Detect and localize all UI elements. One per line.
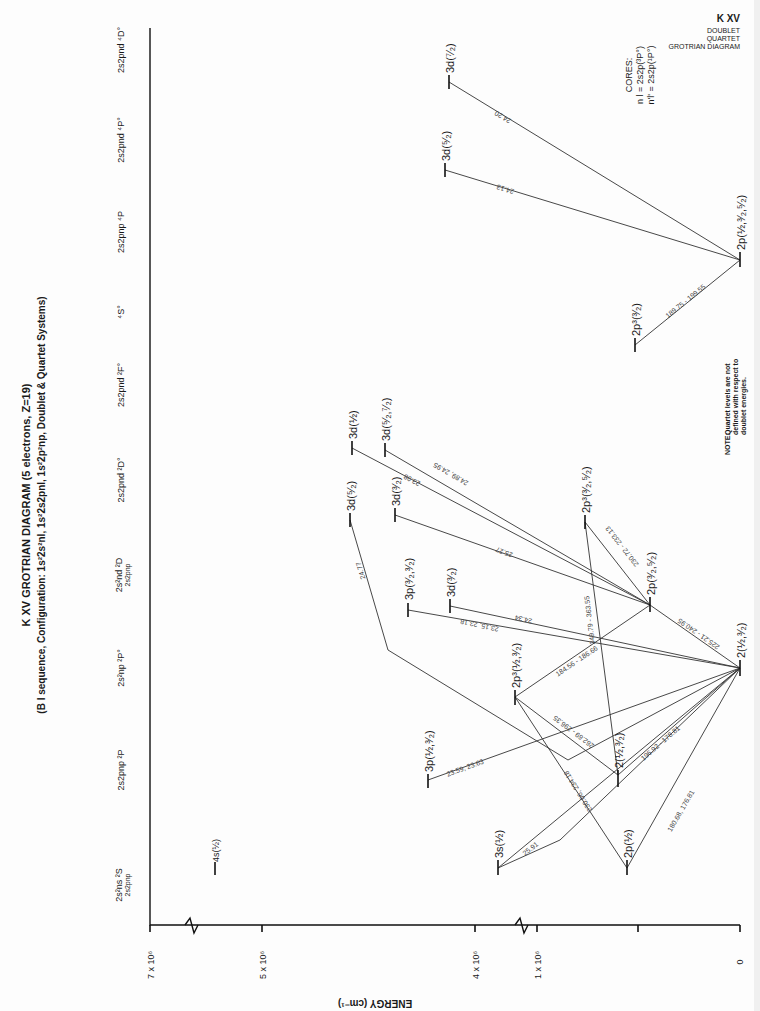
column-sublabel-2D: 2s2pnp <box>124 563 132 586</box>
transition-label: 23.59, 23.63 <box>446 758 485 778</box>
transition-label: 25.91 <box>521 840 539 856</box>
transition-label: 196.92 - 178.81 <box>640 724 682 762</box>
header-line2: QUARTET <box>707 35 741 43</box>
axis-tick-0: 0 <box>735 959 745 964</box>
column-label-4Do: 2s2pnd ⁴D° <box>116 27 126 73</box>
transition-label: 230.72 - 233.13 <box>604 525 640 568</box>
column-label-4So: ⁴S° <box>116 305 126 319</box>
transition-3dd-2pb <box>352 448 650 605</box>
transition-label: 180.68, 176.81 <box>666 789 695 833</box>
transition-3dq2-2pq <box>449 82 740 260</box>
transition-label: 23.15, 23.18 <box>460 618 500 633</box>
axis-tick-4e6: 4 x 10⁶ <box>471 951 481 980</box>
level-label: 2p³(³⁄₂,⁵⁄₂) <box>580 466 592 513</box>
level-label: 2p(³⁄₂,⁵⁄₂) <box>645 552 657 595</box>
transition-2p3b-2pb <box>585 522 650 605</box>
note-line2: defined with respect to <box>732 359 740 435</box>
column-sublabel-2S: 2s2pnp <box>124 873 132 896</box>
level-label: 3d(⁷⁄₂) <box>444 43 456 73</box>
level-label: 3s(½) <box>493 830 505 858</box>
level-label: 3d(³⁄₂) <box>445 568 457 597</box>
header-block: K XV DOUBLET QUARTET GROTRIAN DIAGRAM <box>668 13 740 50</box>
axis-tick-1e6: 1 x 10⁶ <box>533 951 543 980</box>
note-line1: Quartet levels are not <box>724 363 732 435</box>
axis-tick-7e6: 7 x 10⁶ <box>146 951 156 980</box>
transition-2a-ground <box>618 668 740 775</box>
column-label-2Fo: 2s2pnd ²F° <box>116 363 126 408</box>
level-label: 3d(½) <box>347 410 359 439</box>
transition-2p3a-2a <box>515 697 618 775</box>
column-label-4P: 2s2pnp ⁴P <box>116 211 126 253</box>
column-labels: 2s²ns ²S 2s2pnp 2s2pnp ²P 2s²np ²P° 2s²n… <box>114 27 132 902</box>
note-line3: doublet energies. <box>740 377 748 435</box>
transition-label: 24.20 <box>493 110 512 125</box>
axis-tick-5e6: 5 x 10⁶ <box>258 951 268 980</box>
cores-line1: n l = 2s2p(³P°) <box>635 46 645 104</box>
transition-3dq1-2pq <box>445 170 740 260</box>
level-label: 3d(⁵⁄₂) <box>440 131 452 161</box>
header-line1: DOUBLET <box>707 27 741 34</box>
note-head: NOTE: <box>724 433 731 455</box>
column-label-4Po: 2s2pnd ⁴P° <box>116 117 126 163</box>
level-label: 4s(½) <box>211 839 221 862</box>
transition-2p3a-2pb <box>515 605 650 697</box>
level-label: 3p(½,³⁄₂) <box>423 730 435 772</box>
header-ion: K XV <box>717 13 741 24</box>
transition-label: 24.89, 24.95 <box>432 461 469 487</box>
column-label-2P: 2s2pnp ²P <box>116 749 126 790</box>
cores-line2: n'l' = 2s2p(¹P°) <box>646 46 656 105</box>
level-label: 3d(⁵⁄₂) <box>345 481 357 511</box>
level-label: 2p³(½,³⁄₂) <box>510 643 522 688</box>
level-label: 3p(³⁄₂,³⁄₂) <box>403 558 415 600</box>
column-label-2S: 2s²ns ²S <box>114 868 124 902</box>
transition-label: 262.69 - 296.35 <box>552 714 595 749</box>
transition-label: 230.06, 234.18 <box>562 770 593 813</box>
transition-labels: 25.91 180.68, 176.81 196.92 - 178.81 23.… <box>355 110 721 857</box>
level-label: 2p(½,³⁄₂,⁵⁄₂) <box>735 195 747 250</box>
level-label: 2p³(³⁄₂) <box>630 303 642 336</box>
transition-label: 184.56 - 186.66 <box>554 644 599 677</box>
diagram-canvas: K XV DOUBLET QUARTET GROTRIAN DIAGRAM K … <box>0 0 760 1011</box>
title-block: K XV GROTRIAN DIAGRAM (5 electrons, Z=19… <box>20 296 47 713</box>
transition-label: 25.27 <box>495 546 514 559</box>
cores-title: CORES: <box>624 58 634 93</box>
title-sub: (B I sequence, Configuration: 1s²2s²nl, … <box>36 296 47 713</box>
level-label: 2(½,³⁄₂) <box>735 623 747 658</box>
energy-levels: 4s(½) 3s(½) 2p(½) 3p(½,³⁄₂) 2(½,³⁄₂) 2p³… <box>211 43 747 875</box>
axis-label-energy: ENERGY (cm⁻¹) <box>338 998 412 1009</box>
column-label-2Po: 2s²np ²P° <box>116 649 126 687</box>
level-label: 2(½,³⁄₂) <box>613 733 625 768</box>
level-label: 3d(³⁄₂) <box>390 477 402 506</box>
cores-legend: CORES: n l = 2s2p(³P°) n'l' = 2s2p(¹P°) <box>624 46 656 105</box>
title-main: K XV GROTRIAN DIAGRAM (5 electrons, Z=19… <box>20 383 32 626</box>
transition-label: 349.79 - 363.55 <box>583 595 596 645</box>
transition-label: 23.98 <box>402 473 421 487</box>
transition-label: 24.13 <box>496 183 515 195</box>
level-label: 3d(⁵⁄₂,⁷⁄₂) <box>380 398 392 441</box>
note-block: NOTE: Quartet levels are not defined wit… <box>724 359 748 455</box>
transition-label: 24.34 <box>514 614 533 625</box>
column-label-2D: 2s²nd ²D <box>114 557 124 592</box>
level-label: 2p(½) <box>622 829 634 858</box>
grotrian-diagram-page: K XV DOUBLET QUARTET GROTRIAN DIAGRAM K … <box>0 0 760 1011</box>
transition-label: 189.75 - 199.55 <box>664 283 707 319</box>
header-line3: GROTRIAN DIAGRAM <box>668 43 740 50</box>
axis-frame <box>150 28 740 925</box>
column-label-2Do: 2s2pnd ²D° <box>116 457 126 503</box>
transition-label: 225.21 - 240.95 <box>676 617 720 651</box>
